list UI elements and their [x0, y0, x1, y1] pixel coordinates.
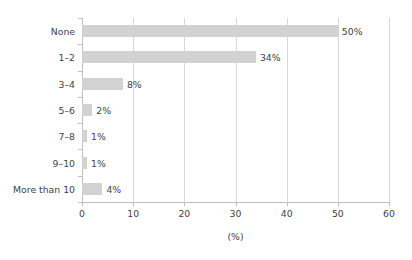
bar [82, 51, 256, 63]
plot-area: None50%1–234%3–48%5–62%7–81%9–101%More t… [82, 18, 389, 202]
category-label: More than 10 [13, 183, 75, 194]
category-label: 1–2 [59, 52, 75, 63]
bar [82, 78, 123, 90]
bar [82, 130, 87, 142]
bar-row: 5–62% [82, 97, 389, 123]
category-label: 3–4 [59, 78, 75, 89]
x-tick-mark-10 [133, 202, 134, 206]
x-tick-mark-20 [184, 202, 185, 206]
x-tick-label: 30 [230, 208, 242, 219]
bar-value-label: 8% [127, 78, 142, 89]
bar-row: 7–81% [82, 123, 389, 149]
bar [82, 183, 102, 195]
bar-row: More than 104% [82, 176, 389, 202]
x-tick-mark-30 [236, 202, 237, 206]
x-tick-label: 40 [281, 208, 293, 219]
bar-value-label: 2% [96, 104, 111, 115]
x-tick-mark-0 [82, 202, 83, 206]
bar [82, 157, 87, 169]
x-tick-label: 10 [127, 208, 139, 219]
x-tick-label: 0 [79, 208, 85, 219]
bar-row: 3–48% [82, 71, 389, 97]
bar-value-label: 50% [342, 26, 363, 37]
bar-row: 1–234% [82, 44, 389, 70]
x-tick-mark-60 [389, 202, 390, 206]
bar-value-label: 4% [106, 183, 121, 194]
x-tick-label: 50 [332, 208, 344, 219]
bar [82, 104, 92, 116]
bar-value-label: 1% [91, 131, 106, 142]
x-tick-mark-50 [338, 202, 339, 206]
x-tick-label: 20 [178, 208, 190, 219]
bar-chart: None50%1–234%3–48%5–62%7–81%9–101%More t… [0, 0, 412, 260]
category-label: 7–8 [59, 131, 75, 142]
y-tick-mark [78, 149, 82, 150]
category-label: None [51, 26, 75, 37]
bar-row: 9–101% [82, 149, 389, 175]
y-tick-mark [78, 123, 82, 124]
category-label: 9–10 [53, 157, 75, 168]
category-label: 5–6 [59, 104, 75, 115]
x-tick-label: 60 [383, 208, 395, 219]
y-tick-mark [78, 18, 82, 19]
y-tick-mark [78, 97, 82, 98]
bar-value-label: 34% [260, 52, 281, 63]
x-axis-title: (%) [82, 231, 389, 242]
y-tick-mark [78, 176, 82, 177]
gridline-x-60 [389, 18, 390, 202]
y-tick-mark [78, 71, 82, 72]
y-tick-mark [78, 44, 82, 45]
bar-row: None50% [82, 18, 389, 44]
bar-value-label: 1% [91, 157, 106, 168]
x-tick-mark-40 [287, 202, 288, 206]
bar [82, 25, 338, 37]
